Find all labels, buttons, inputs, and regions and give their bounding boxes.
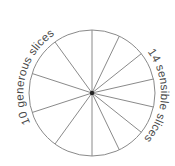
diagram-canvas: 10 generous slices 14 sensible slices bbox=[0, 0, 175, 166]
pizza-slice-diagram: 10 generous slices 14 sensible slices bbox=[0, 0, 175, 166]
right-half-slice-lines bbox=[92, 36, 153, 150]
left-half-slice-lines bbox=[32, 42, 92, 144]
center-dot bbox=[90, 91, 94, 95]
